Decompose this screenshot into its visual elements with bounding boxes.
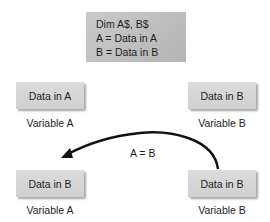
after-variable-b-content: Data in B [200,178,243,190]
after-variable-a-box: Data in B [16,170,84,197]
after-variable-a-label: Variable A [5,204,95,216]
after-variable-b-box: Data in B [188,170,256,197]
after-variable-b-label: Variable B [177,204,267,216]
assignment-label: A = B [130,147,155,159]
after-variable-a-content: Data in B [28,178,71,190]
